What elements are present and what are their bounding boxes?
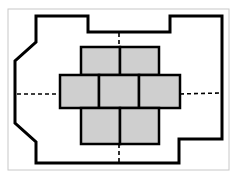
dashed-axis-line bbox=[180, 93, 220, 94]
tile-top-1 bbox=[120, 47, 159, 75]
tile-middle-4 bbox=[139, 75, 180, 108]
tile-bottom-5 bbox=[81, 108, 120, 144]
tile-middle-2 bbox=[60, 75, 99, 108]
tile-middle-3 bbox=[99, 75, 139, 108]
floor-plan-diagram bbox=[0, 0, 238, 179]
tile-bottom-6 bbox=[120, 108, 159, 144]
tile-top-0 bbox=[81, 47, 120, 75]
tile-grid bbox=[60, 47, 180, 144]
